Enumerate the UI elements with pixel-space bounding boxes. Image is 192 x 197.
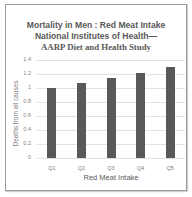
x-tick-label: Q1 — [42, 165, 62, 171]
y-tick-label: 1.2 — [15, 70, 31, 76]
gridline — [37, 158, 185, 159]
bar-q5 — [166, 67, 175, 158]
y-tick-label: 0.6 — [15, 112, 31, 118]
y-tick-label: 0.4 — [15, 126, 31, 132]
y-tick-label: 1 — [15, 84, 31, 90]
x-tick-label: Q2 — [71, 165, 91, 171]
x-tick-label: Q3 — [101, 165, 121, 171]
y-tick-label: 0.2 — [15, 140, 31, 146]
bar-q4 — [136, 73, 145, 158]
y-tick-label: 1.4 — [15, 56, 31, 62]
x-tick-label: Q4 — [131, 165, 151, 171]
y-tick-label: 0 — [15, 154, 31, 160]
x-tick-label: Q5 — [160, 165, 180, 171]
bar-q2 — [77, 83, 86, 158]
x-axis-label: Red Meat Intake — [37, 173, 185, 182]
gridline — [37, 60, 185, 61]
chart-subtitle-2: AARP Diet and Health Study — [0, 42, 192, 52]
bar-q3 — [107, 78, 116, 159]
y-tick-label: 0.8 — [15, 98, 31, 104]
chart-title: Mortality in Men : Red Meat Intake — [0, 20, 192, 30]
plot-area — [37, 60, 185, 158]
chart-subtitle-1: National Institutes of Health— — [0, 31, 192, 41]
gridline — [37, 74, 185, 75]
bar-q1 — [47, 88, 56, 158]
